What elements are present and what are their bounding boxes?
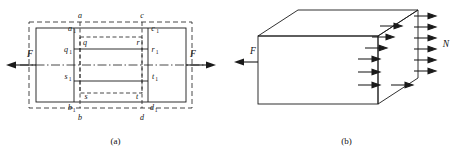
label-a1-base: a xyxy=(68,24,72,33)
label-a1-subscript: 1 xyxy=(73,28,76,34)
stress-arrow xyxy=(358,82,380,88)
distributed-stress-arrows xyxy=(358,13,436,88)
stress-arrow xyxy=(414,46,436,52)
stress-arrow xyxy=(414,68,436,74)
label-c1-base: c xyxy=(151,24,155,33)
label-s1-base: s xyxy=(64,72,67,81)
stress-arrow xyxy=(414,57,436,63)
label-t: t xyxy=(136,92,139,101)
label-a: a xyxy=(78,11,82,20)
force-label-left: F xyxy=(26,49,33,59)
caption-panel-b: (b) xyxy=(231,136,462,146)
label-s: s xyxy=(84,92,87,101)
label-t1: t 1 xyxy=(152,72,158,82)
label-d1-subscript: 1 xyxy=(155,107,158,113)
panel-b-svg: N F xyxy=(231,0,462,132)
stress-arrow xyxy=(358,69,380,75)
label-d: d xyxy=(140,113,145,122)
label-q1: q 1 xyxy=(64,45,72,55)
label-q: q xyxy=(83,38,87,47)
stress-arrow xyxy=(358,56,380,62)
resultant-label-N: N xyxy=(442,39,450,49)
label-t1-subscript: 1 xyxy=(155,76,158,82)
label-c: c xyxy=(140,11,144,20)
force-label-right: F xyxy=(189,49,196,59)
panel-a-svg: F F a a 1 c c 1 q r q xyxy=(0,0,231,132)
label-c1-subscript: 1 xyxy=(156,28,159,34)
label-q1-base: q xyxy=(64,45,68,54)
label-q1-subscript: 1 xyxy=(69,49,72,55)
label-a1: a 1 xyxy=(68,24,76,34)
stress-arrow xyxy=(365,45,387,51)
label-b1-base: b xyxy=(68,103,72,112)
caption-panel-a: (a) xyxy=(0,136,231,146)
force-arrow-left xyxy=(6,62,36,69)
figure-root: F F a a 1 c c 1 q r q xyxy=(0,0,462,148)
force-arrow-right xyxy=(186,62,216,69)
stress-arrow xyxy=(372,34,394,40)
label-s1: s 1 xyxy=(64,72,71,82)
label-s1-subscript: 1 xyxy=(69,76,72,82)
label-b1-subscript: 1 xyxy=(73,107,76,113)
stress-arrow xyxy=(414,35,436,41)
label-r1-subscript: 1 xyxy=(156,49,159,55)
label-b: b xyxy=(78,113,82,122)
force-arrow-left-b xyxy=(234,59,258,66)
label-r1: r 1 xyxy=(151,45,158,55)
label-c1: c 1 xyxy=(151,24,159,34)
label-r: r xyxy=(136,38,140,47)
panel-b-block-normal-stress: N F (b) xyxy=(231,0,462,148)
label-b1: b 1 xyxy=(68,103,76,113)
force-label-left-b: F xyxy=(249,46,256,56)
panel-a-axial-bar: F F a a 1 c c 1 q r q xyxy=(0,0,231,148)
label-d1: d 1 xyxy=(150,103,158,113)
stress-arrow xyxy=(414,24,436,30)
stress-arrow xyxy=(414,13,436,19)
